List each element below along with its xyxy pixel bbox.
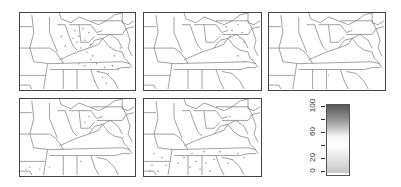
map-panel-1 [19,12,136,91]
tick-80 [321,119,325,120]
tick-0 [321,171,325,172]
state-map-3 [269,13,385,90]
state-map-5 [144,99,261,176]
tick-100 [321,106,325,107]
tick-40 [321,145,325,146]
colorbar [326,104,350,176]
state-map-2 [144,13,261,90]
map-panel-2 [143,12,262,91]
tick-label-0: 0 [308,161,317,181]
tick-label-60: 60 [308,122,317,142]
map-panel-4 [19,98,136,177]
tick-60 [321,132,325,133]
state-map-4 [20,99,135,176]
state-map-1 [20,13,135,90]
map-panel-5 [143,98,262,177]
map-panel-3 [268,12,386,91]
tick-label-100: 100 [308,96,317,116]
tick-20 [321,158,325,159]
